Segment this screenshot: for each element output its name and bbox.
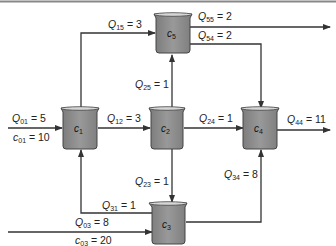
reactor-c3: c3 <box>162 220 171 231</box>
flow-label-Q24: Q24 = 1 <box>199 113 233 125</box>
flow-label-c03: c03 = 20 <box>75 235 112 246</box>
flow-label-Q23: Q23 = 1 <box>135 176 169 188</box>
flow-label-Q31: Q31 = 1 <box>102 200 136 212</box>
reactor-c2: c2 <box>161 124 170 135</box>
flow-label-Q55: Q55 = 2 <box>198 11 232 23</box>
reactor-c5: c5 <box>167 29 176 40</box>
flow-label-Q44: Q44 = 11 <box>287 114 326 126</box>
reactor-c1: c1 <box>74 124 83 135</box>
flow-label-Q01: Q01 = 5 <box>12 113 46 125</box>
flow-label-c01: c01 = 10 <box>13 132 50 144</box>
flow-label-Q25: Q25 = 1 <box>135 79 169 91</box>
reactor-network-diagram: c1 c2 c3 c4 c5 Q01 = 5 c01 = 10 Q15 = 3 … <box>0 0 336 246</box>
flow-label-Q03: Q03 = 8 <box>75 217 109 229</box>
reactor-c4: c4 <box>254 124 263 135</box>
flow-label-Q15: Q15 = 3 <box>108 19 142 31</box>
flow-label-Q54: Q54 = 2 <box>198 30 232 42</box>
flow-label-Q34: Q34 = 8 <box>224 169 258 181</box>
flow-label-Q12: Q12 = 3 <box>107 113 141 125</box>
